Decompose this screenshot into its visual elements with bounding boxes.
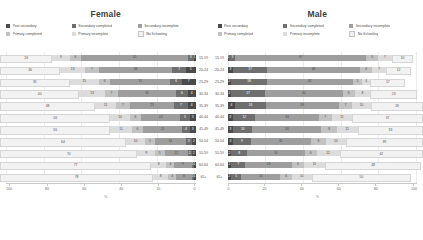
bar-row: 35206105640-44 [0, 112, 212, 124]
bar-rows-female: 1355692615-1957387133020-2476316153525-2… [0, 52, 212, 183]
stacked-bar[interactable]: 1194877 [0, 162, 196, 169]
legend-item-primary-incomplete[interactable]: Primary incomplete [283, 31, 349, 37]
bar-segment: 24 [245, 162, 292, 169]
stacked-bar[interactable]: 283061242 [228, 150, 423, 157]
bar-value-label: 6 [135, 116, 137, 119]
stacked-bar[interactable]: 1184878 [0, 174, 196, 181]
bar-segment: 6 [70, 55, 82, 62]
legend-item-secondary-completed[interactable]: Secondary completed [72, 24, 138, 28]
bar-segment: 31 [110, 79, 170, 86]
stacked-bar[interactable]: 3103681133 [228, 126, 423, 133]
bar-value-label: 26 [24, 57, 28, 60]
legend-row: Primary completed Primary incomplete No … [218, 31, 418, 37]
category-label: 40-44 [196, 115, 212, 119]
axis-tick-label: 80 [45, 187, 49, 191]
legend-item-primary-completed[interactable]: Primary completed [6, 31, 72, 37]
bar-row: 40-443123471137 [212, 112, 423, 124]
legend-item-post-secondary[interactable]: Post secondary [218, 24, 284, 28]
bar-value-label: 8 [361, 92, 363, 95]
bar-segment: 5 [353, 79, 363, 86]
stacked-bar[interactable]: 393181039 [228, 138, 423, 145]
bar-value-label: 3 [229, 116, 231, 119]
bar-segment: 5 [155, 150, 165, 157]
bar-value-label: 2 [229, 80, 231, 83]
legend-item-post-secondary[interactable]: Post secondary [6, 24, 72, 28]
bar-segment: 38 [99, 67, 173, 74]
stacked-bar[interactable]: 13676710 [228, 55, 423, 62]
legend-item-secondary-incomplete[interactable]: Secondary incomplete [349, 24, 415, 28]
legend-item-no-schooling[interactable]: No Schooling [138, 31, 204, 37]
legend-item-secondary-completed[interactable]: Secondary completed [283, 24, 349, 28]
stacked-bar[interactable]: 463071340 [0, 90, 196, 97]
stacked-bar[interactable]: 22125970 [0, 150, 196, 157]
plot-area-male: 15-191367671020-2431748671225-2921844541… [212, 52, 423, 183]
bar-segment: 39 [346, 138, 423, 147]
bar-segment: 6 [280, 174, 292, 181]
bar-value-label: 4 [365, 80, 367, 83]
bar-segment: 67 [235, 55, 366, 62]
bar-value-label: 4 [185, 128, 187, 131]
legend-label: No Schooling [146, 32, 167, 36]
stacked-bar[interactable]: 472371148 [0, 102, 196, 109]
stacked-bar[interactable]: 3123471137 [228, 114, 423, 121]
bar-segment: 12 [317, 150, 340, 157]
stacked-bar[interactable]: 218445417 [228, 79, 423, 86]
legend-item-primary-incomplete[interactable]: Primary incomplete [72, 31, 138, 37]
bar-segment: 6 [132, 126, 144, 133]
bar-row: 60-64272461148 [212, 159, 423, 171]
bar-value-label: 3 [230, 68, 232, 71]
stacked-bar[interactable]: 252061050 [228, 174, 423, 181]
bar-value-label: 30 [274, 152, 278, 155]
stacked-bar[interactable]: 573871330 [0, 67, 196, 74]
bar-segment: 10 [392, 55, 414, 64]
x-axis-female: 100806040200 % [0, 183, 212, 201]
bar-value-label: 10 [360, 104, 364, 107]
bar-value-label: 55 [133, 56, 137, 59]
bar-segment: 4 [188, 102, 196, 109]
legend-row: Post secondary Secondary completed Secon… [218, 24, 418, 28]
bar-value-label: 38 [300, 104, 304, 107]
bar-segment: 48 [0, 102, 95, 111]
stacked-bar[interactable]: 272461148 [228, 162, 423, 169]
stacked-bar[interactable]: 4163871026 [228, 102, 423, 109]
stacked-bar[interactable]: 13556926 [0, 55, 196, 62]
legend-swatch-icon [349, 31, 355, 37]
category-label: 60-64 [196, 163, 212, 167]
bar-value-label: 23 [150, 104, 154, 107]
bar-row: 45-493103681133 [212, 123, 423, 135]
bar-segment: 7 [182, 79, 196, 86]
bar-segment: 10 [110, 114, 129, 121]
bar-value-label: 6 [104, 80, 106, 83]
axis-tick-label: 60 [337, 187, 341, 191]
stacked-bar[interactable]: 763161535 [0, 79, 196, 86]
bar-value-label: 34 [285, 116, 289, 119]
legend-swatch-icon [6, 24, 10, 28]
stacked-bar[interactable]: 231651064 [0, 138, 196, 145]
bar-value-label: 31 [279, 140, 283, 143]
bar-segment: 1 [194, 162, 196, 169]
bar-segment: 10 [292, 174, 312, 181]
bar-segment: 56 [0, 126, 110, 135]
bar-value-label: 1 [194, 175, 196, 178]
stacked-bar[interactable]: 342061156 [0, 126, 196, 133]
bar-segment: 7 [372, 67, 386, 74]
bar-row: 55-59283061242 [212, 147, 423, 159]
bar-value-label: 77 [74, 164, 78, 167]
stacked-bar[interactable]: 317486712 [228, 67, 423, 74]
bar-value-label: 8 [160, 175, 162, 178]
legend-item-no-schooling[interactable]: No Schooling [349, 31, 415, 37]
category-label: 35-39 [196, 104, 212, 108]
legend-item-primary-completed[interactable]: Primary completed [218, 31, 284, 37]
stacked-bar[interactable]: 352061056 [0, 114, 196, 121]
bar-segment: 12 [386, 67, 411, 76]
bar-value-label: 35 [33, 81, 37, 84]
stacked-bar[interactable]: 217406823 [228, 90, 423, 97]
axis-tick: 40 [119, 184, 123, 191]
bar-value-label: 4 [191, 104, 193, 107]
axis-tick-label: 100 [6, 187, 12, 191]
bar-value-label: 2 [229, 92, 231, 95]
bar-segment: 56 [0, 114, 110, 123]
bar-value-label: 12 [326, 152, 330, 155]
legend-item-secondary-incomplete[interactable]: Secondary incomplete [138, 24, 204, 28]
legend-label: Secondary incomplete [356, 24, 391, 28]
